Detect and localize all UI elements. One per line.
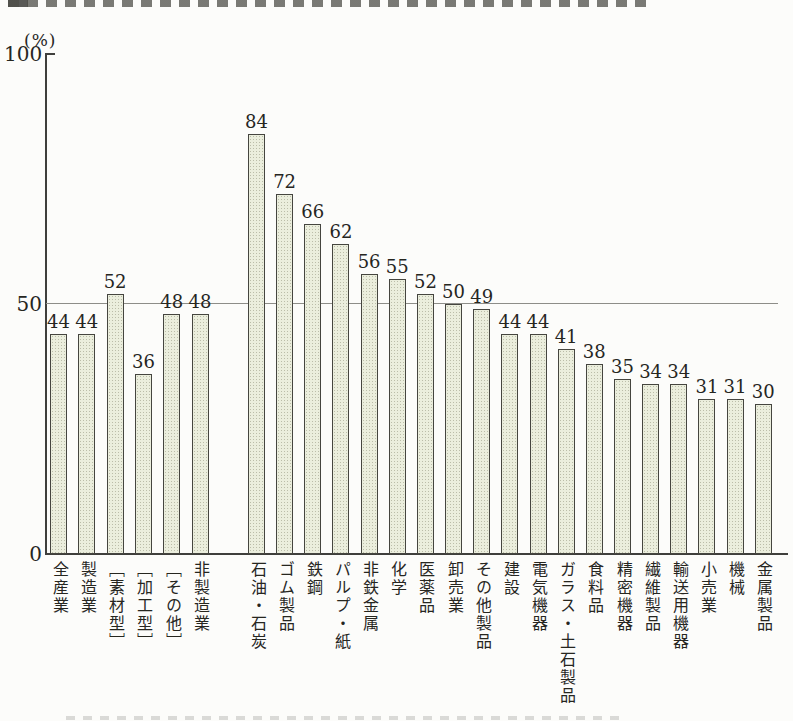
- bar: [389, 279, 406, 554]
- cropped-title-remnant: [8, 0, 648, 7]
- bar-value-label: 49: [460, 287, 504, 307]
- bar: [670, 384, 687, 554]
- bar: [276, 194, 293, 554]
- bar: [586, 364, 603, 554]
- category-label: 繊維製品: [642, 561, 660, 633]
- category-label: 医薬品: [416, 561, 434, 615]
- bar: [361, 274, 378, 554]
- bar: [642, 384, 659, 554]
- category-label: 金属製品: [754, 561, 772, 633]
- bar-value-label: 30: [741, 382, 785, 402]
- bar: [107, 294, 124, 554]
- bar: [473, 309, 490, 554]
- bar-value-label: 72: [263, 172, 307, 192]
- category-label: 輸送用機器: [670, 561, 688, 651]
- category-label: 鉄鋼: [304, 561, 322, 597]
- category-label: 化学: [388, 561, 406, 597]
- bar: [192, 314, 209, 554]
- category-label: 精密機器: [614, 561, 632, 633]
- category-label: 非製造業: [191, 561, 209, 633]
- y-tick-label-0: 0: [4, 542, 42, 566]
- category-label: 機械: [726, 561, 744, 597]
- scanned-chart-page: (%) 10050044全産業44製造業52［素材型］36［加工型］48［その他…: [0, 0, 793, 721]
- bar: [530, 334, 547, 554]
- bar-value-label: 66: [291, 202, 335, 222]
- bar: [614, 379, 631, 554]
- cropped-footnote-remnant: [66, 716, 626, 720]
- bar: [135, 374, 152, 554]
- category-label: 食料品: [585, 561, 603, 615]
- category-label: ［その他］: [163, 561, 181, 651]
- bar: [78, 334, 95, 554]
- bar: [50, 334, 67, 554]
- bar: [558, 349, 575, 554]
- category-label: ［素材型］: [106, 561, 124, 651]
- y-tick-label-100: 100: [4, 42, 42, 66]
- category-label: 非鉄金属: [360, 561, 378, 633]
- category-label: 卸売業: [445, 561, 463, 615]
- category-label: 電気機器: [529, 561, 547, 633]
- bar: [727, 399, 744, 554]
- bar-value-label: 36: [121, 352, 165, 372]
- bar: [332, 244, 349, 554]
- bar: [755, 404, 772, 554]
- bar-value-label: 62: [319, 222, 363, 242]
- bar-value-label: 44: [65, 312, 109, 332]
- category-label: 建設: [501, 561, 519, 597]
- y-axis-top-tick: [46, 53, 55, 55]
- bar-value-label: 52: [93, 272, 137, 292]
- bar: [445, 304, 462, 554]
- bar-value-label: 48: [178, 292, 222, 312]
- category-label: パルプ・紙: [332, 561, 350, 651]
- category-label: 製造業: [78, 561, 96, 615]
- bar: [698, 399, 715, 554]
- category-label: ガラス・土石製品: [557, 561, 575, 705]
- bar: [501, 334, 518, 554]
- category-label: 小売業: [698, 561, 716, 615]
- bar: [417, 294, 434, 554]
- category-label: 石油・石炭: [248, 561, 266, 651]
- category-label: 全産業: [50, 561, 68, 615]
- category-label: ［加工型］: [134, 561, 152, 651]
- bar-value-label: 84: [235, 112, 279, 132]
- category-label: ゴム製品: [276, 561, 294, 633]
- bar: [248, 134, 265, 554]
- category-label: その他製品: [473, 561, 491, 651]
- bar: [163, 314, 180, 554]
- bar: [304, 224, 321, 554]
